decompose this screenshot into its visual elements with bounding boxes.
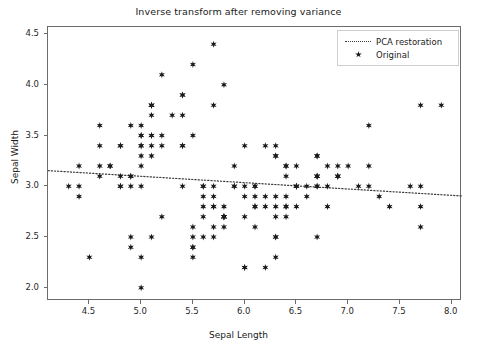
data-point bbox=[376, 193, 382, 200]
data-point bbox=[148, 112, 154, 119]
x-tick-mark bbox=[244, 300, 245, 304]
matplotlib-figure: Inverse transform after removing varianc… bbox=[0, 0, 477, 359]
data-point bbox=[283, 193, 289, 200]
data-point bbox=[221, 81, 227, 88]
data-point bbox=[200, 183, 206, 190]
data-point bbox=[200, 193, 206, 200]
x-tick-label: 6.5 bbox=[275, 306, 315, 316]
x-tick-label: 8.0 bbox=[431, 306, 471, 316]
x-tick-mark bbox=[347, 300, 348, 304]
data-point bbox=[138, 163, 144, 170]
data-point bbox=[211, 203, 217, 210]
data-point bbox=[407, 183, 413, 190]
data-point bbox=[117, 142, 123, 149]
data-point bbox=[128, 234, 134, 241]
data-point bbox=[138, 183, 144, 190]
data-point bbox=[314, 152, 320, 159]
data-point bbox=[190, 254, 196, 261]
data-point bbox=[262, 193, 268, 200]
data-point bbox=[97, 142, 103, 149]
x-tick-label: 7.0 bbox=[327, 306, 367, 316]
data-point bbox=[242, 183, 248, 190]
data-point bbox=[97, 163, 103, 170]
data-point bbox=[304, 193, 310, 200]
y-tick-mark bbox=[44, 185, 48, 186]
data-point bbox=[366, 163, 372, 170]
legend-item-pca-restoration: PCA restoration bbox=[343, 35, 453, 48]
legend-label-original: Original bbox=[373, 50, 409, 60]
data-point bbox=[314, 234, 320, 241]
data-point bbox=[200, 234, 206, 241]
data-point bbox=[324, 163, 330, 170]
data-point bbox=[262, 203, 268, 210]
data-point bbox=[138, 152, 144, 159]
x-tick-label: 6.0 bbox=[224, 306, 264, 316]
data-point bbox=[366, 122, 372, 129]
y-tick-mark bbox=[44, 135, 48, 136]
legend-dotted-line-swatch bbox=[343, 36, 373, 48]
data-point bbox=[159, 213, 165, 220]
data-point bbox=[200, 213, 206, 220]
data-point bbox=[387, 203, 393, 210]
data-point bbox=[335, 173, 341, 180]
x-tick-mark bbox=[399, 300, 400, 304]
data-point bbox=[273, 152, 279, 159]
data-point bbox=[138, 254, 144, 261]
data-point bbox=[211, 193, 217, 200]
data-point bbox=[159, 142, 165, 149]
data-point bbox=[107, 163, 113, 170]
data-point bbox=[418, 102, 424, 109]
data-point bbox=[231, 183, 237, 190]
data-point bbox=[324, 183, 330, 190]
data-point bbox=[180, 91, 186, 98]
data-point bbox=[76, 193, 82, 200]
plot-area bbox=[47, 26, 461, 300]
y-tick-label: 3.0 bbox=[1, 180, 39, 190]
data-point bbox=[128, 122, 134, 129]
data-point bbox=[190, 244, 196, 251]
x-tick-mark bbox=[295, 300, 296, 304]
data-point bbox=[355, 183, 361, 190]
data-point bbox=[242, 264, 248, 271]
data-point bbox=[283, 173, 289, 180]
y-tick-label: 2.0 bbox=[1, 282, 39, 292]
data-point bbox=[221, 203, 227, 210]
data-point bbox=[211, 234, 217, 241]
y-tick-label: 4.5 bbox=[1, 28, 39, 38]
data-point bbox=[252, 193, 258, 200]
y-tick-label: 2.5 bbox=[1, 231, 39, 241]
data-point bbox=[138, 122, 144, 129]
data-point bbox=[190, 234, 196, 241]
data-point bbox=[200, 203, 206, 210]
data-point bbox=[252, 203, 258, 210]
data-point bbox=[169, 112, 175, 119]
data-point bbox=[293, 203, 299, 210]
x-axis-label: Sepal Length bbox=[0, 330, 477, 340]
data-canvas bbox=[48, 27, 462, 301]
data-point bbox=[128, 244, 134, 251]
x-tick-label: 4.5 bbox=[68, 306, 108, 316]
data-point bbox=[345, 163, 351, 170]
data-point bbox=[76, 163, 82, 170]
data-point bbox=[211, 102, 217, 109]
x-tick-label: 7.5 bbox=[379, 306, 419, 316]
data-point bbox=[97, 122, 103, 129]
data-point bbox=[273, 203, 279, 210]
data-point bbox=[138, 142, 144, 149]
data-point bbox=[86, 254, 92, 261]
data-point bbox=[148, 142, 154, 149]
data-point bbox=[180, 183, 186, 190]
data-point bbox=[148, 234, 154, 241]
chart-title: Inverse transform after removing varianc… bbox=[0, 6, 477, 17]
data-point bbox=[273, 254, 279, 261]
data-point bbox=[190, 223, 196, 230]
y-tick-label: 3.5 bbox=[1, 130, 39, 140]
data-point bbox=[273, 234, 279, 241]
data-point bbox=[283, 203, 289, 210]
data-point bbox=[438, 102, 444, 109]
data-point bbox=[128, 183, 134, 190]
data-point bbox=[148, 132, 154, 139]
data-point bbox=[148, 152, 154, 159]
legend-item-original: Original bbox=[343, 48, 453, 61]
y-tick-label: 4.0 bbox=[1, 79, 39, 89]
